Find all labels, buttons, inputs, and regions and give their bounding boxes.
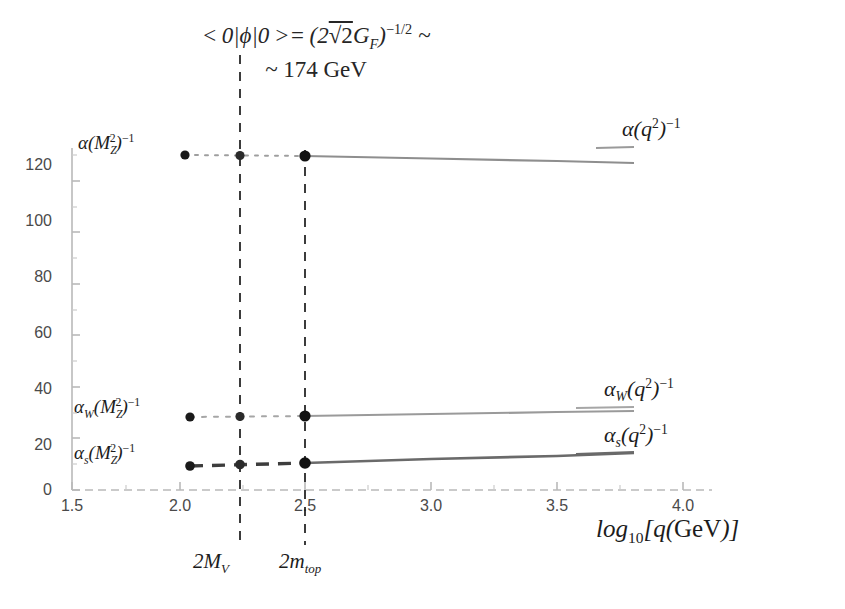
alpha-label-leader bbox=[596, 147, 634, 148]
x-major-ticks bbox=[72, 482, 683, 490]
alpha-w-marker-2-0 bbox=[185, 412, 194, 421]
alpha-s-marker-2-0 bbox=[185, 461, 195, 471]
alpha-s-curve-dashed bbox=[190, 463, 305, 466]
plot-canvas bbox=[0, 0, 845, 609]
alpha-w-marker-2-25 bbox=[235, 412, 244, 421]
alpha-s-marker-2-5 bbox=[299, 457, 311, 469]
alpha-w-label-leader bbox=[576, 407, 634, 408]
alpha-curve-solid bbox=[305, 156, 634, 163]
alpha-w-marker-2-5 bbox=[299, 410, 310, 421]
alpha-marker-2-5 bbox=[299, 150, 310, 161]
running-couplings-figure: < 0|ϕ|0 >= (2√2GF)−1/2 ~ ~ 174 GeV 120 1… bbox=[0, 0, 845, 609]
alpha-curve-dashed bbox=[185, 155, 305, 156]
alpha-w-curve-dashed bbox=[190, 416, 305, 417]
alpha-marker-2-25 bbox=[235, 151, 244, 160]
alpha-s-marker-2-25 bbox=[235, 460, 245, 470]
alpha-w-curve-solid bbox=[305, 411, 634, 416]
alpha-marker-2-0 bbox=[180, 150, 189, 159]
y-major-ticks bbox=[72, 181, 80, 490]
